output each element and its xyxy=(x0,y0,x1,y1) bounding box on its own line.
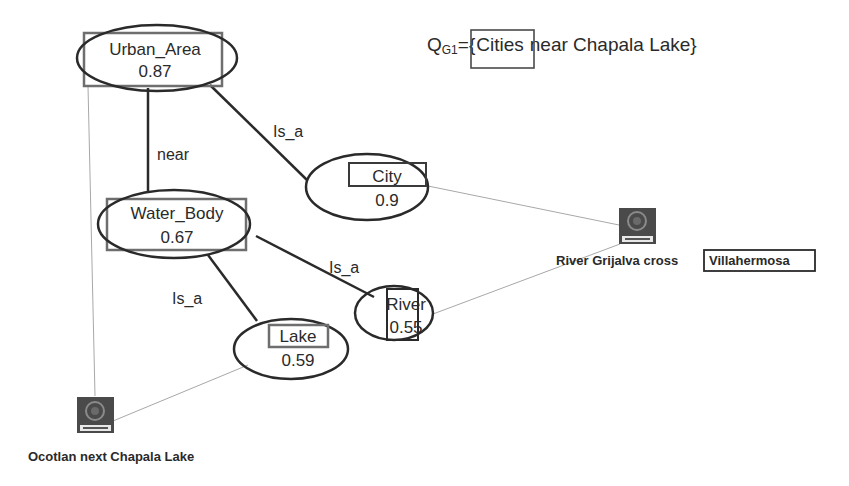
instance-highlighted: Villahermosa xyxy=(709,253,790,268)
instance-label: Ocotlan next Chapala Lake xyxy=(28,449,194,464)
edge-label-river-is-a: Is_a xyxy=(329,259,359,277)
node-city[interactable]: City 0.9 xyxy=(306,154,428,220)
link-city-to-villahermosa xyxy=(428,186,619,225)
query-highlighted-term: Cities xyxy=(476,34,524,55)
concept-graph: near Is_a Is_a Is_a Urban_Area 0.87 City… xyxy=(0,0,849,486)
edge-label-city-is-a: Is_a xyxy=(273,123,303,141)
query-expression: QG1={Citiesnear Chapala Lake} xyxy=(427,30,697,68)
instance-ocotlan[interactable]: Ocotlan next Chapala Lake xyxy=(28,397,194,464)
query-equals-brace: ={ xyxy=(458,34,476,55)
query-prefix: Q xyxy=(427,34,442,55)
edge-lake-is-a-water-body xyxy=(208,255,257,321)
node-urban-area[interactable]: Urban_Area 0.87 xyxy=(77,25,237,91)
query-rest: near Chapala Lake} xyxy=(530,34,697,55)
link-lake-to-ocotlan xyxy=(113,365,248,421)
edge-label-near: near xyxy=(157,146,190,163)
instance-villahermosa[interactable]: River Grijalva cross Villahermosa xyxy=(556,208,815,271)
query-subscript: G1 xyxy=(442,43,458,57)
node-score: 0.87 xyxy=(138,62,171,81)
node-score: 0.59 xyxy=(281,351,314,370)
node-label: City xyxy=(372,167,402,186)
node-score: 0.9 xyxy=(375,191,399,210)
node-label: River xyxy=(386,295,426,314)
node-score: 0.55 xyxy=(389,318,422,337)
node-label: Lake xyxy=(280,327,317,346)
link-urban-area-to-ocotlan xyxy=(88,86,95,396)
node-lake[interactable]: Lake 0.59 xyxy=(234,319,348,379)
chapala-seal-icon xyxy=(77,397,114,433)
node-water-body[interactable]: Water_Body 0.67 xyxy=(98,190,250,258)
svg-text:QG1={Citiesnear Chapala Lake}: QG1={Citiesnear Chapala Lake} xyxy=(427,34,697,57)
node-label: Urban_Area xyxy=(109,40,201,59)
chapala-seal-icon xyxy=(619,208,656,244)
edge-label-lake-is-a: Is_a xyxy=(172,290,202,308)
node-score: 0.67 xyxy=(160,228,193,247)
node-river[interactable]: River 0.55 xyxy=(355,286,433,340)
node-label: Water_Body xyxy=(131,204,224,223)
instance-prefix: River Grijalva cross xyxy=(556,253,678,268)
